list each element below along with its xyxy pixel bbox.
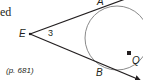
label-point-e: E — [19, 29, 26, 39]
partial-word-text: ed — [0, 6, 11, 18]
page-reference: (p. 681) — [6, 67, 34, 75]
tangent-line-ea — [30, 0, 128, 34]
label-point-a: A — [97, 0, 104, 7]
point-q-dot — [127, 51, 131, 55]
label-point-q: Q — [132, 56, 140, 66]
geometry-figure: ed E 3 A B Q (p. 681) — [0, 0, 143, 80]
label-point-b: B — [96, 68, 103, 78]
point-e-dot — [29, 33, 31, 35]
label-angle-3: 3 — [48, 29, 53, 38]
